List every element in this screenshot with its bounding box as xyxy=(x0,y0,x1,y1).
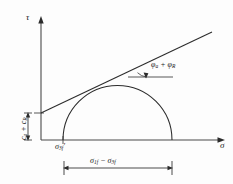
deviator-stress-label: σ1f − σ3f xyxy=(90,157,116,166)
cohesion-subscript-a: a xyxy=(22,134,28,137)
deviator-minus: − xyxy=(98,156,107,165)
friction-angle-arrowhead xyxy=(144,72,149,78)
diagram-canvas xyxy=(0,0,233,184)
friction-angle-label: φa + φR xyxy=(151,61,175,70)
sigma3f-prime-mark: ′ xyxy=(63,142,65,151)
x-axis-label: σ xyxy=(220,141,224,150)
mohr-coulomb-diagram: τ σ ca + cR φa + φR σ3f′ σ1f − σ3f xyxy=(0,0,233,184)
sigma3f-label: σ3f′ xyxy=(55,143,65,152)
cohesion-subscript-r: R xyxy=(22,117,28,120)
failure-envelope-line xyxy=(41,32,212,113)
cohesion-symbol-a: c xyxy=(19,136,28,140)
phi-plus: + xyxy=(158,60,167,69)
cohesion-symbol-r: c xyxy=(19,121,28,125)
y-axis-label: τ xyxy=(26,13,29,22)
y-axis-arrowhead xyxy=(38,16,43,24)
cohesion-label: ca + cR xyxy=(20,117,29,140)
sigma3f-subscript-2: 3f xyxy=(112,159,116,165)
cohesion-plus: + xyxy=(19,124,28,133)
mohr-circle xyxy=(63,86,172,140)
phi-subscript-r: R xyxy=(172,63,175,69)
